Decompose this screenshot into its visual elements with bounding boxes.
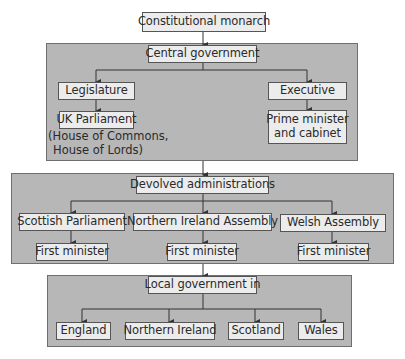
- note-line-2: House of Lords): [48, 144, 148, 158]
- constitutional-monarch-box: Constitutional monarch: [142, 12, 266, 32]
- local-government-box: Local government in: [148, 276, 257, 294]
- note-line-1: (House of Commons,: [48, 130, 148, 144]
- welsh-first-minister-box: First minister: [298, 243, 369, 261]
- northern-ireland-assembly-box: Northern Ireland Assembly: [133, 213, 272, 231]
- england-box: England: [56, 322, 111, 340]
- northern-ireland-box: Northern Ireland: [125, 322, 215, 340]
- pm-line-2: and cabinet: [274, 127, 341, 141]
- uk-parliament-box: UK Parliament: [59, 111, 134, 129]
- devolved-administrations-box: Devolved administrations: [136, 176, 269, 194]
- executive-box: Executive: [268, 82, 347, 100]
- scottish-parliament-box: Scottish Parliament: [19, 213, 125, 231]
- prime-minister-box: Prime minister and cabinet: [268, 110, 347, 144]
- welsh-assembly-box: Welsh Assembly: [280, 214, 386, 232]
- wales-box: Wales: [298, 322, 344, 340]
- scottish-first-minister-box: First minister: [36, 243, 108, 261]
- legislature-box: Legislature: [58, 82, 135, 100]
- scotland-box: Scotland: [228, 322, 284, 340]
- ni-first-minister-box: First minister: [167, 243, 237, 261]
- pm-line-1: Prime minister: [266, 113, 348, 127]
- central-government-box: Central government: [148, 45, 257, 63]
- uk-parliament-note: (House of Commons, House of Lords): [48, 130, 148, 158]
